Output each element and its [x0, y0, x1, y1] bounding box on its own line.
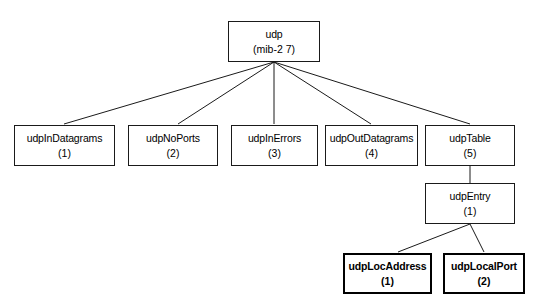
- node-label: udpLocAddress: [349, 260, 427, 273]
- node-label: udpEntry: [450, 190, 491, 203]
- node-udpInDatagrams[interactable]: udpInDatagrams(1): [14, 125, 115, 166]
- node-index: (mib-2 7): [253, 43, 295, 56]
- mib-tree-diagram: udp(mib-2 7)udpInDatagrams(1)udpNoPorts(…: [0, 0, 541, 305]
- edge-udp-to-udpTable: [274, 62, 470, 124]
- node-label: udpLocalPort: [451, 260, 517, 273]
- edge-udpEntry-to-udpLocalPort: [470, 224, 484, 252]
- node-index: (1): [464, 205, 477, 218]
- node-label: udpInErrors: [248, 132, 301, 145]
- node-udpLocalPort[interactable]: udpLocalPort(2): [443, 253, 525, 294]
- node-index: (5): [464, 147, 477, 160]
- node-udpLocAddress[interactable]: udpLocAddress(1): [343, 253, 432, 294]
- node-index: (1): [58, 147, 71, 160]
- node-label: udpInDatagrams: [27, 132, 103, 145]
- node-label: udpTable: [449, 132, 490, 145]
- edge-udp-to-udpInDatagrams: [64, 62, 274, 124]
- node-label: udpNoPorts: [146, 132, 200, 145]
- edge-udpEntry-to-udpLocAddress: [398, 224, 470, 252]
- node-udpEntry[interactable]: udpEntry(1): [425, 183, 515, 224]
- node-index: (1): [381, 275, 394, 288]
- node-udp[interactable]: udp(mib-2 7): [228, 21, 320, 62]
- node-index: (2): [167, 147, 180, 160]
- edge-udp-to-udpNoPorts: [178, 62, 274, 124]
- node-index: (3): [268, 147, 281, 160]
- node-label: udp: [265, 28, 282, 41]
- node-udpTable[interactable]: udpTable(5): [425, 125, 515, 166]
- node-udpInErrors[interactable]: udpInErrors(3): [231, 125, 318, 166]
- edge-udp-to-udpOutDatagrams: [274, 62, 371, 124]
- node-label: udpOutDatagrams: [330, 132, 414, 145]
- node-udpNoPorts[interactable]: udpNoPorts(2): [128, 125, 218, 166]
- node-udpOutDatagrams[interactable]: udpOutDatagrams(4): [325, 125, 418, 166]
- node-index: (4): [365, 147, 378, 160]
- node-index: (2): [478, 275, 491, 288]
